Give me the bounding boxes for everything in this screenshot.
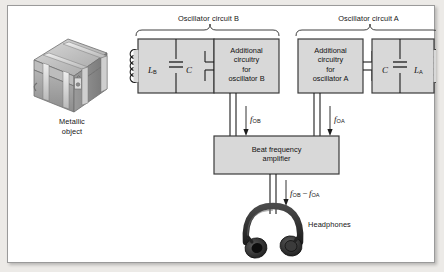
- circuitry-a-line1: Additional: [298, 46, 363, 55]
- circuitry-a-line4: oscillator A: [298, 74, 363, 83]
- amplifier-flow-arrow: [283, 180, 288, 206]
- inductor-a-label: LA: [414, 59, 423, 77]
- inductor-b-label: LB: [148, 59, 157, 77]
- circuitry-b-line3: for: [214, 65, 279, 74]
- metallic-object-illustration: [34, 39, 107, 112]
- figure-frame: Oscillator circuit B Oscillator circuit …: [7, 5, 435, 263]
- circuitry-a-line2: circuitry: [298, 55, 363, 64]
- oscillator-a-bracket-label: Oscillator circuit A: [296, 15, 441, 24]
- amplifier-label: Beat frequency amplifier: [214, 145, 339, 164]
- amplifier-line1: Beat frequency: [214, 145, 339, 154]
- oscillator-a-bracket: [296, 24, 436, 36]
- circuitry-b-line4: oscillator B: [214, 74, 279, 83]
- oscillator-b-output-leads: [230, 93, 236, 136]
- frequency-b-label: fOB: [250, 108, 261, 126]
- diagram-stage: Oscillator circuit B Oscillator circuit …: [8, 6, 434, 262]
- circuitry-a-line3: for: [298, 65, 363, 74]
- capacitor-a-label: C: [382, 59, 388, 77]
- headphones-label: Headphones: [308, 221, 388, 230]
- oscillator-a-output-leads: [314, 93, 320, 136]
- circuitry-b-line1: Additional: [214, 46, 279, 55]
- oscillator-b-circuitry-text: Additional circuitry for oscillator B: [214, 46, 279, 84]
- metallic-object-label-line2: object: [36, 128, 108, 137]
- capacitor-b-label: C: [186, 59, 192, 77]
- headphones-illustration: [243, 206, 304, 261]
- oscillator-b-bracket: [136, 24, 279, 36]
- circuitry-b-line2: circuitry: [214, 55, 279, 64]
- metallic-object-label-line1: Metallic: [36, 118, 108, 127]
- beat-frequency-output-label: fOB−fOA: [290, 182, 320, 200]
- oscillator-a-circuitry-text: Additional circuitry for oscillator A: [298, 46, 363, 84]
- frequency-a-label: fOA: [334, 108, 345, 126]
- oscillator-b-bracket-label: Oscillator circuit B: [136, 15, 281, 24]
- oscillator-b-flow-arrow: [243, 106, 248, 136]
- oscillator-b-lc-tank: [130, 39, 214, 93]
- amplifier-line2: amplifier: [214, 154, 339, 163]
- oscillator-a-flow-arrow: [327, 106, 332, 136]
